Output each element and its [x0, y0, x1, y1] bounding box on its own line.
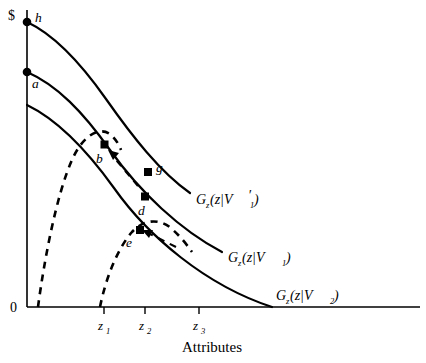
tick-label-z3: z — [192, 318, 198, 333]
tick-label-z2: z — [138, 318, 144, 333]
curve-label-middle-group: G z (z|V 1 ) — [228, 250, 291, 268]
dashed-hump-left — [38, 131, 121, 307]
tick-label-z3-group: z 3 — [192, 318, 205, 336]
curve-upper-v1-prime — [27, 22, 190, 193]
point-label-a: a — [32, 76, 39, 91]
curve-label-upper-close: ) — [253, 192, 259, 208]
point-label-e: e — [126, 235, 132, 250]
point-label-h: h — [35, 10, 42, 25]
point-label-g: g — [156, 160, 163, 175]
x-axis-ticks — [104, 307, 199, 314]
curve-label-middle-args: (z|V — [242, 250, 266, 266]
tick-label-z1-group: z 1 — [97, 318, 110, 336]
curve-label-upper-args: (z|V — [210, 192, 234, 208]
y-axis-label: $ — [8, 8, 15, 23]
point-label-d: d — [138, 203, 145, 218]
curve-lower-v2 — [27, 105, 272, 307]
curve-label-middle-main: G — [228, 250, 238, 265]
figure-container: $ 0 h a b g d e z 1 z 2 z 3 G z (z|V 1 ′… — [0, 0, 426, 363]
point-label-b: b — [96, 151, 103, 166]
curve-label-middle-close: ) — [285, 250, 291, 266]
y-origin-label: 0 — [10, 300, 17, 315]
curve-label-upper-group: G z (z|V 1 ′ ) — [196, 188, 259, 210]
axes — [27, 10, 420, 307]
point-marker-g — [144, 168, 152, 176]
x-axis-title: Attributes — [182, 339, 242, 355]
curve-label-lower-args: (z|V — [290, 288, 314, 304]
point-marker-b — [101, 141, 109, 149]
curve-label-upper-main: G — [196, 192, 206, 207]
curve-label-lower-group: G z (z|V 2 ) — [276, 288, 339, 306]
tick-label-z2-group: z 2 — [138, 318, 152, 336]
tick-label-z1-sub: 1 — [106, 326, 110, 336]
point-marker-d — [141, 193, 149, 201]
economics-diagram-svg: $ 0 h a b g d e z 1 z 2 z 3 G z (z|V 1 ′… — [0, 0, 426, 363]
curve-middle-v1 — [27, 72, 222, 252]
tick-label-z1: z — [97, 318, 103, 333]
point-markers — [23, 18, 152, 234]
tick-label-z2-sub: 2 — [147, 326, 152, 336]
point-marker-h — [23, 18, 32, 27]
point-marker-a — [23, 68, 32, 77]
arrow-to-e-line — [148, 233, 176, 247]
curve-label-lower-close: ) — [333, 288, 339, 304]
tick-label-z3-sub: 3 — [200, 326, 205, 336]
point-marker-e — [136, 226, 144, 234]
curve-label-lower-main: G — [276, 288, 286, 303]
